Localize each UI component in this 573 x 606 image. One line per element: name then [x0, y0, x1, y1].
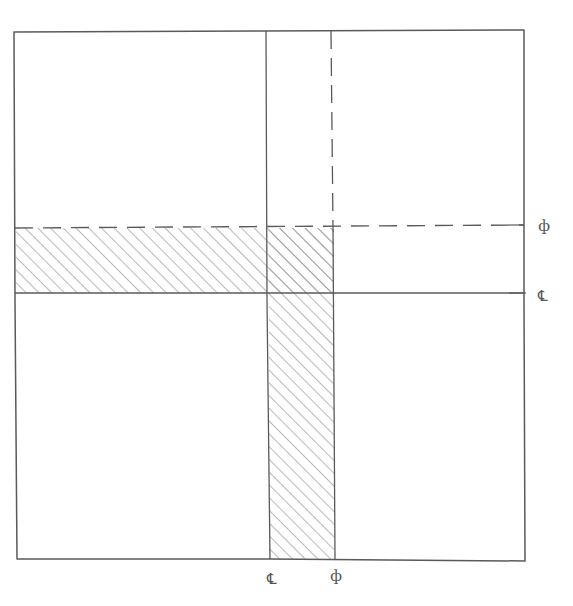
right-centerline-label: ℄ — [538, 289, 548, 304]
vertical-hatched-band — [269, 228, 334, 560]
horizontal-dashed-line — [15, 225, 524, 228]
plan-sketch-diagram — [0, 0, 573, 606]
vertical-dashed-line — [331, 31, 333, 227]
right-dashed-line-label: ф — [538, 219, 550, 234]
bottom-dashed-line-label: ф — [330, 569, 342, 584]
bottom-centerline-label: ℄ — [267, 572, 277, 587]
